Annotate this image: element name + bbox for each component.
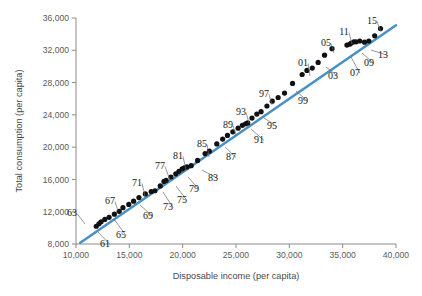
data-point[interactable] bbox=[282, 90, 287, 95]
x-tick-label-40000: 40,000 bbox=[383, 250, 410, 260]
point-label-73: 73 bbox=[163, 201, 173, 212]
point-label-81: 81 bbox=[173, 150, 183, 161]
data-point[interactable] bbox=[112, 212, 117, 217]
data-point[interactable] bbox=[236, 126, 241, 131]
data-point[interactable] bbox=[366, 38, 371, 43]
point-label-75: 75 bbox=[177, 194, 187, 205]
x-tick-label-25000: 25,000 bbox=[223, 250, 250, 260]
point-label-01: 01 bbox=[298, 57, 308, 68]
annotation-leader-67 bbox=[115, 202, 118, 212]
data-point[interactable] bbox=[249, 115, 254, 120]
point-label-03: 03 bbox=[328, 70, 338, 81]
data-point[interactable] bbox=[357, 38, 362, 43]
data-point[interactable] bbox=[131, 199, 136, 204]
data-point[interactable] bbox=[106, 215, 111, 220]
point-label-69: 69 bbox=[143, 210, 153, 221]
data-point[interactable] bbox=[372, 33, 377, 38]
y-tick-label-36000: 36,000 bbox=[43, 13, 70, 23]
y-tick-label-24000: 24,000 bbox=[43, 110, 70, 120]
x-tick-label-15000: 15,000 bbox=[116, 250, 143, 260]
point-label-71: 71 bbox=[132, 177, 142, 188]
x-tick-label-35000: 35,000 bbox=[330, 250, 357, 260]
data-point[interactable] bbox=[143, 191, 148, 196]
x-tick-label-30000: 30,000 bbox=[276, 250, 303, 260]
annotation-leader-63 bbox=[77, 214, 85, 225]
point-label-85: 85 bbox=[197, 138, 207, 149]
y-tick-label-16000: 16,000 bbox=[43, 175, 70, 185]
trend-line bbox=[80, 25, 396, 243]
x-tick-label-20000: 20,000 bbox=[170, 250, 197, 260]
data-point[interactable] bbox=[264, 103, 269, 108]
data-point[interactable] bbox=[136, 195, 141, 200]
point-label-95: 95 bbox=[267, 120, 277, 131]
point-label-13: 13 bbox=[378, 49, 388, 60]
axis-lines bbox=[76, 18, 396, 244]
scatter-plot: 8,00012,00016,00020,00024,00028,00032,00… bbox=[0, 0, 422, 296]
data-point[interactable] bbox=[195, 158, 200, 163]
point-label-63: 63 bbox=[67, 207, 77, 218]
y-tick-label-8000: 8,000 bbox=[47, 239, 69, 249]
point-label-65: 65 bbox=[116, 229, 126, 240]
trendline-layer bbox=[80, 25, 396, 243]
data-point[interactable] bbox=[322, 53, 327, 58]
data-point[interactable] bbox=[316, 60, 321, 65]
data-point[interactable] bbox=[120, 205, 125, 210]
point-label-89: 89 bbox=[223, 119, 233, 130]
point-label-91: 91 bbox=[254, 134, 264, 145]
chart-container: 8,00012,00016,00020,00024,00028,00032,00… bbox=[0, 0, 422, 296]
data-point[interactable] bbox=[225, 133, 230, 138]
data-point[interactable] bbox=[152, 188, 157, 193]
point-label-83: 83 bbox=[208, 172, 218, 183]
y-tick-label-20000: 20,000 bbox=[43, 142, 70, 152]
data-point[interactable] bbox=[189, 163, 194, 168]
data-point[interactable] bbox=[214, 141, 219, 146]
data-point[interactable] bbox=[258, 109, 263, 114]
point-label-67: 67 bbox=[105, 195, 115, 206]
y-tick-label-28000: 28,000 bbox=[43, 78, 70, 88]
point-label-15: 15 bbox=[367, 15, 377, 26]
data-point[interactable] bbox=[158, 183, 163, 188]
data-point[interactable] bbox=[164, 178, 169, 183]
x-tick-label-10000: 10,000 bbox=[63, 250, 90, 260]
point-label-97: 97 bbox=[259, 88, 269, 99]
data-point[interactable] bbox=[126, 202, 131, 207]
data-points-layer bbox=[94, 26, 383, 229]
data-point[interactable] bbox=[245, 120, 250, 125]
data-point[interactable] bbox=[310, 65, 315, 70]
point-label-05: 05 bbox=[321, 37, 331, 48]
point-label-87: 87 bbox=[226, 151, 236, 162]
point-label-79: 79 bbox=[189, 183, 199, 194]
point-label-61: 61 bbox=[100, 238, 110, 249]
x-axis-title: Disposable income (per capita) bbox=[173, 271, 300, 281]
y-tick-label-32000: 32,000 bbox=[43, 45, 70, 55]
point-label-77: 77 bbox=[155, 160, 165, 171]
data-point[interactable] bbox=[220, 136, 225, 141]
point-label-09: 09 bbox=[364, 57, 374, 68]
point-label-07: 07 bbox=[350, 67, 360, 78]
y-axis-title: Total consumption (per capita) bbox=[14, 69, 24, 192]
point-label-99: 99 bbox=[298, 95, 308, 106]
y-tick-label-12000: 12,000 bbox=[43, 207, 70, 217]
data-point[interactable] bbox=[300, 72, 305, 77]
point-label-11: 11 bbox=[339, 26, 349, 37]
data-point[interactable] bbox=[276, 95, 281, 100]
point-label-93: 93 bbox=[236, 106, 246, 117]
data-point[interactable] bbox=[290, 81, 295, 86]
